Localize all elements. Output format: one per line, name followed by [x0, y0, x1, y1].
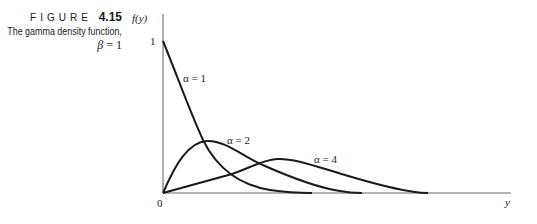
- y-tick-1: 1: [150, 35, 156, 47]
- gamma-density-chart: f(y) 1 0 y α = 1 α = 2 α = 4: [0, 0, 537, 224]
- origin-label: 0: [157, 197, 163, 209]
- label-alpha-2: α = 2: [227, 134, 250, 146]
- y-axis-label: f(y): [132, 12, 148, 25]
- curve-alpha-1: [163, 41, 312, 193]
- label-alpha-4: α = 4: [314, 153, 337, 165]
- curve-alpha-4: [163, 159, 428, 193]
- label-alpha-1: α = 1: [183, 72, 206, 84]
- x-axis-label: y: [504, 196, 510, 208]
